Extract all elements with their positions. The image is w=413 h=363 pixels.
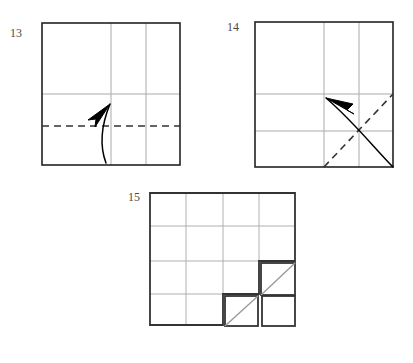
step-13-creases (42, 23, 180, 165)
step-15-square-top-right (261, 263, 295, 295)
step-15-square-bottom-right (262, 296, 295, 326)
figure-canvas (0, 0, 413, 363)
step-15-square-bottom-left (225, 296, 258, 326)
square-bottom-left-diagonal (225, 296, 258, 326)
step-15-diagram (150, 193, 295, 326)
square-top-right-diagonal (261, 263, 295, 295)
step-13-diagram (42, 23, 180, 165)
square-bottom-right-outline (262, 296, 295, 326)
origami-figure: 13 14 15 (0, 0, 413, 363)
step-14-diagram (255, 22, 393, 167)
